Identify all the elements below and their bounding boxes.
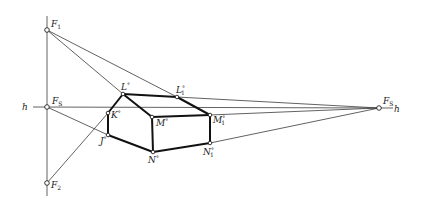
point-j	[106, 133, 110, 137]
label-l: L°	[120, 81, 130, 92]
label-n1: N°1	[202, 146, 214, 158]
construction-line-l1-fs	[177, 97, 379, 108]
construction-line-fs-j	[47, 107, 108, 135]
label-h-right: h	[394, 104, 400, 114]
label-f2: F2	[50, 180, 61, 191]
construction-line-n1-fs	[210, 108, 379, 143]
point-k	[106, 111, 110, 115]
label-fs-right: FS	[382, 96, 393, 107]
label-n: N°	[147, 154, 159, 165]
construction-line-m1-fs	[210, 108, 379, 115]
label-m1: M°1	[212, 114, 225, 126]
point-f1	[45, 28, 50, 33]
house-eave-edge	[152, 115, 210, 117]
point-m1	[208, 113, 212, 117]
house-ridge-edge	[123, 94, 177, 97]
label-l1: L°1	[175, 84, 185, 96]
house-roof-edge	[177, 97, 210, 115]
construction-line-f1-l	[47, 30, 123, 94]
horizon-line	[33, 107, 393, 108]
house-front-gable	[108, 94, 153, 152]
point-n	[151, 150, 155, 154]
label-j: J°	[98, 135, 107, 146]
point-m	[150, 115, 154, 119]
label-f1: F1	[50, 19, 61, 30]
label-k: K°	[110, 109, 121, 120]
label-fs-left: FS	[51, 96, 62, 107]
house-base-edge	[153, 143, 210, 152]
point-fs-right	[377, 106, 382, 111]
point-n1	[208, 141, 212, 145]
construction-line-f2-k	[47, 113, 108, 183]
perspective-diagram: h h F1 F2 FS FS L° L°1 K° J° M° M°1 N° N…	[0, 0, 421, 208]
label-h-left: h	[22, 102, 28, 112]
point-f2	[45, 181, 50, 186]
point-l1	[175, 95, 179, 99]
construction-line-f1-l1	[47, 30, 177, 97]
label-m: M°	[155, 117, 168, 128]
point-fs-left	[45, 105, 50, 110]
point-l	[121, 92, 125, 96]
